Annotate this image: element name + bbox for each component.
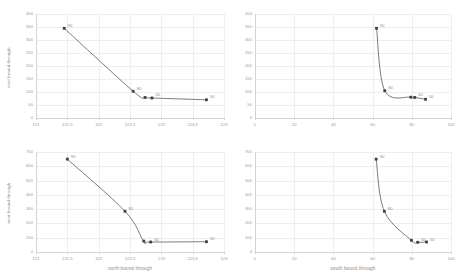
data-point-marker	[409, 96, 412, 99]
data-point-marker	[132, 90, 135, 93]
data-point-label: 50	[429, 94, 434, 99]
data-point-label: 90	[68, 23, 73, 28]
data-point-marker	[413, 96, 416, 99]
data-point-marker	[424, 98, 427, 101]
chart-panel-top-right: 0501001502002503003504000204060801009080…	[233, 0, 465, 140]
data-point-label: 80	[128, 206, 133, 211]
chart-panel-top-left: 050100150200250300350400121121.5122122.5…	[0, 0, 233, 140]
data-point-marker	[124, 210, 127, 213]
data-point-marker	[63, 27, 66, 30]
chart-panel-bottom-right: 0100200300400500600700020406080100south …	[233, 140, 465, 279]
data-point-marker	[383, 210, 386, 213]
data-point-marker	[205, 240, 208, 243]
data-point-marker	[375, 27, 378, 30]
data-point-marker	[66, 158, 69, 161]
data-point-marker	[375, 158, 378, 161]
data-point-marker	[416, 241, 419, 244]
data-point-label: 50	[430, 237, 435, 242]
data-point-label: 50	[210, 236, 215, 241]
data-point-marker	[142, 240, 145, 243]
data-point-marker	[144, 96, 147, 99]
chart-panel-bottom-left: 0100200300400500600700121121.5122122.512…	[0, 140, 233, 279]
data-point-label: 60	[418, 92, 423, 97]
data-point-label: 80	[388, 85, 393, 90]
series-line	[233, 140, 465, 279]
data-point-label: 60	[154, 237, 159, 242]
data-point-marker	[149, 241, 152, 244]
data-point-label: 60	[155, 92, 160, 97]
data-point-marker	[410, 239, 413, 242]
data-point-marker	[383, 89, 386, 92]
series-line	[233, 0, 465, 140]
data-point-label: 80	[388, 206, 393, 211]
data-point-marker	[205, 98, 208, 101]
data-point-label: 90	[380, 154, 385, 159]
data-point-label: 60	[421, 237, 426, 242]
series-line	[0, 0, 233, 140]
data-point-label: 90	[380, 23, 385, 28]
figure-canvas: 050100150200250300350400121121.5122122.5…	[0, 0, 465, 279]
data-point-marker	[151, 97, 154, 100]
data-point-label: 50	[210, 94, 215, 99]
data-point-label: 90	[71, 154, 76, 159]
series-line	[0, 140, 233, 279]
data-point-label: 80	[137, 86, 142, 91]
